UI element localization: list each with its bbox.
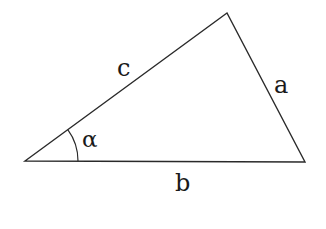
side-b-label: b	[175, 169, 190, 197]
angle-alpha-label: α	[82, 126, 98, 152]
side-a-label: a	[274, 71, 288, 99]
angle-alpha-arc	[68, 130, 78, 161]
side-c-label: c	[117, 54, 130, 82]
triangle	[25, 13, 305, 162]
triangle-diagram: c a b α	[0, 0, 326, 229]
